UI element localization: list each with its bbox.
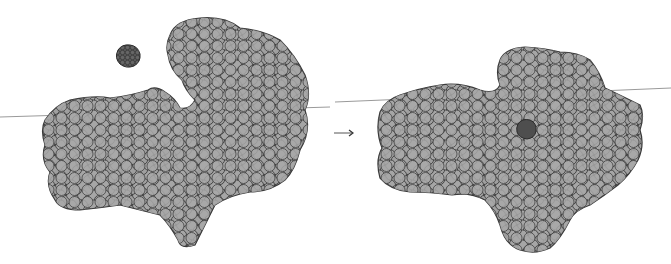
protein-closed-state (378, 47, 643, 252)
transition-arrow (334, 130, 353, 136)
protein-open-state (43, 18, 309, 247)
ligand-unbound (116, 45, 140, 67)
ligand-bound (517, 120, 536, 140)
diagram-canvas (0, 0, 671, 264)
